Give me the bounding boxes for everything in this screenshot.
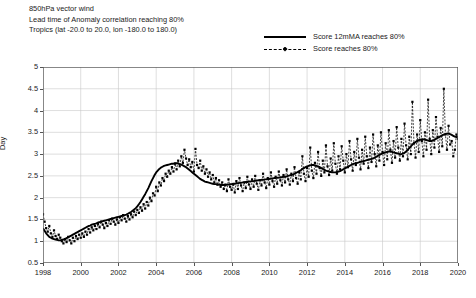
x-axis-tick-label: 2012 xyxy=(287,268,327,277)
plot-area: 0.511.522.533.544.5519982000200220042006… xyxy=(43,67,458,263)
chart-canvas xyxy=(43,67,458,263)
y-axis-tick-label: 4.5 xyxy=(12,84,38,93)
x-axis-tick-mark xyxy=(232,263,233,266)
x-axis-tick-mark xyxy=(118,263,119,266)
x-axis-tick-label: 2016 xyxy=(363,268,403,277)
x-axis-tick-mark xyxy=(43,263,44,266)
x-axis-tick-mark xyxy=(307,263,308,266)
legend-label-moving-average: Score 12mMA reaches 80% xyxy=(313,31,405,43)
y-axis-tick-mark xyxy=(40,111,43,112)
title-line-1: 850hPa vector wind xyxy=(29,4,184,15)
x-axis-tick-label: 2000 xyxy=(61,268,101,277)
legend-swatch-dashed-marker-line xyxy=(262,44,308,54)
chart-legend: Score 12mMA reaches 80% Score reaches 80… xyxy=(262,31,405,55)
y-axis-tick-mark xyxy=(40,67,43,68)
chart-title-block: 850hPa vector wind Lead time of Anomaly … xyxy=(29,4,184,36)
x-axis-tick-mark xyxy=(420,263,421,266)
x-axis-tick-mark xyxy=(81,263,82,266)
y-axis-tick-mark xyxy=(40,219,43,220)
x-axis-tick-mark xyxy=(458,263,459,266)
legend-item-score: Score reaches 80% xyxy=(262,43,405,55)
y-axis-tick-label: 2 xyxy=(12,193,38,202)
x-axis-tick-label: 2006 xyxy=(174,268,214,277)
y-axis-tick-mark xyxy=(40,154,43,155)
x-axis-tick-label: 2014 xyxy=(325,268,365,277)
x-axis-tick-mark xyxy=(345,263,346,266)
legend-swatch-solid-line xyxy=(262,32,308,42)
x-axis-tick-label: 2008 xyxy=(212,268,252,277)
y-axis-tick-mark xyxy=(40,176,43,177)
y-axis-tick-mark xyxy=(40,132,43,133)
y-axis-tick-mark xyxy=(40,89,43,90)
y-axis-tick-label: 4 xyxy=(12,106,38,115)
y-axis-tick-label: 3 xyxy=(12,149,38,158)
y-axis-label: Day xyxy=(0,137,7,150)
y-axis-tick-label: 2.5 xyxy=(12,171,38,180)
y-axis-tick-label: 1.5 xyxy=(12,214,38,223)
x-axis-tick-mark xyxy=(269,263,270,266)
x-axis-tick-label: 2002 xyxy=(98,268,138,277)
title-line-2: Lead time of Anomaly correlation reachin… xyxy=(29,15,184,26)
x-axis-tick-label: 2018 xyxy=(400,268,440,277)
legend-label-score: Score reaches 80% xyxy=(313,43,378,55)
y-axis-tick-label: 1 xyxy=(12,236,38,245)
x-axis-tick-label: 1998 xyxy=(23,268,63,277)
x-axis-tick-label: 2020 xyxy=(438,268,476,277)
y-axis-tick-label: 3.5 xyxy=(12,127,38,136)
x-axis-tick-mark xyxy=(383,263,384,266)
x-axis-tick-mark xyxy=(194,263,195,266)
legend-marker-diamond-icon xyxy=(283,47,288,52)
y-axis-tick-mark xyxy=(40,198,43,199)
y-axis-tick-label: 0.5 xyxy=(12,258,38,267)
x-axis-tick-label: 2004 xyxy=(136,268,176,277)
x-axis-tick-label: 2010 xyxy=(249,268,289,277)
legend-item-moving-average: Score 12mMA reaches 80% xyxy=(262,31,405,43)
title-line-3: Tropics (lat -20.0 to 20.0, lon -180.0 t… xyxy=(29,25,184,36)
y-axis-tick-mark xyxy=(40,241,43,242)
x-axis-tick-mark xyxy=(156,263,157,266)
y-axis-tick-label: 5 xyxy=(12,62,38,71)
